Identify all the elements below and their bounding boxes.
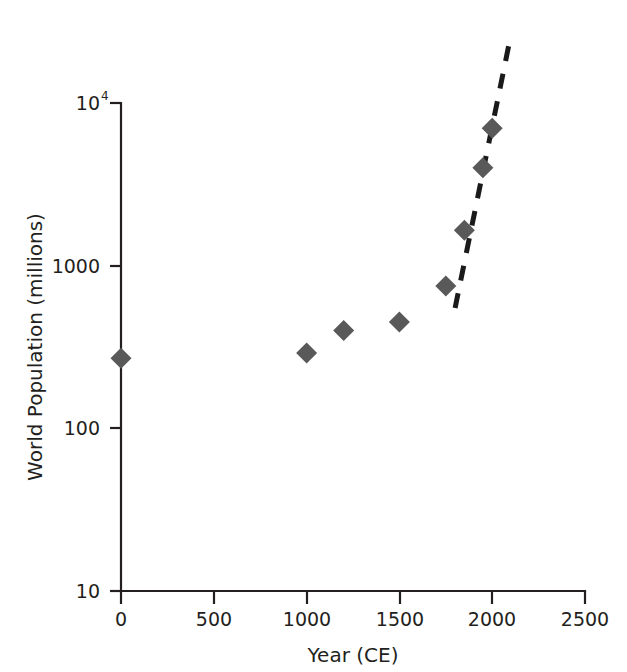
y-axis-title: World Population (millions) — [23, 213, 47, 481]
x-tick-label-500: 500 — [196, 608, 232, 630]
y-tick-label-1000: 1000 — [52, 255, 100, 277]
x-tick-label-0: 0 — [115, 608, 127, 630]
y-tick-label-100: 100 — [64, 417, 100, 439]
x-tick-marks — [121, 591, 585, 604]
x-axis-title: Year (CE) — [307, 643, 399, 667]
data-point-marker — [111, 348, 132, 369]
x-tick-label-1000: 1000 — [283, 608, 331, 630]
data-point-marker — [472, 157, 493, 178]
data-point-marker — [482, 118, 503, 139]
y-tick-labels: 10 4 1000 100 10 — [52, 89, 109, 602]
chart-canvas: 10 4 1000 100 10 0 500 1000 1500 2000 25… — [0, 0, 627, 672]
data-point-marker — [296, 343, 317, 364]
x-tick-label-2500: 2500 — [561, 608, 609, 630]
data-point-marker — [435, 276, 456, 297]
y-tick-marks — [110, 103, 121, 591]
axes-group — [121, 103, 585, 591]
data-point-marker — [389, 312, 410, 333]
data-point-marker — [333, 320, 354, 341]
data-markers-group — [111, 118, 503, 369]
y-tick-label-10: 10 — [76, 580, 100, 602]
x-tick-labels: 0 500 1000 1500 2000 2500 — [115, 608, 609, 630]
population-chart: 10 4 1000 100 10 0 500 1000 1500 2000 25… — [0, 0, 627, 672]
y-tick-label-10000: 10 — [76, 92, 100, 114]
x-tick-label-2000: 2000 — [468, 608, 516, 630]
y-tick-label-10000-exponent: 4 — [101, 89, 109, 103]
x-tick-label-1500: 1500 — [376, 608, 424, 630]
